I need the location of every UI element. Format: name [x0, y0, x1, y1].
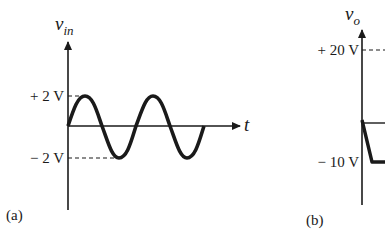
caption-b: (b)	[306, 212, 324, 229]
y-label-vin: vin	[55, 13, 74, 38]
vo-waveform	[362, 120, 385, 162]
vin-sine-wave	[68, 96, 204, 158]
tick-pos-2v: + 2 V	[30, 88, 64, 104]
figure: vin t + 2 V − 2 V (a) vo + 20 V − 10 V (…	[0, 0, 385, 236]
tick-neg-10v: − 10 V	[317, 154, 359, 170]
caption-a: (a)	[6, 207, 23, 224]
panel-a: vin t + 2 V − 2 V (a)	[6, 13, 250, 224]
tick-pos-20v: + 20 V	[317, 42, 359, 58]
tick-neg-2v: − 2 V	[30, 150, 64, 166]
panel-b: vo + 20 V − 10 V (b)	[306, 3, 385, 229]
x-label-t: t	[244, 114, 250, 135]
y-label-vo: vo	[345, 3, 360, 28]
